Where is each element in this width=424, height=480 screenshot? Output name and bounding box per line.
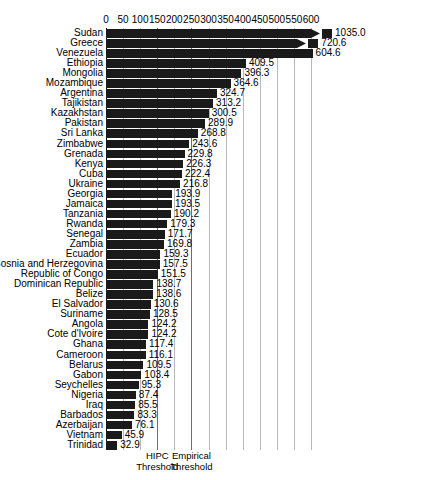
x-tick-label-450: 450 [251, 13, 268, 27]
bar-row: Vietnam45.9 [0, 430, 424, 440]
bar-row: Georgia193.9 [0, 189, 424, 199]
bar-row: Cameroon116.1 [0, 350, 424, 360]
bar [106, 69, 241, 78]
bar [106, 190, 172, 199]
bar-row: Sudan1035.0 [0, 28, 424, 38]
bar [106, 129, 198, 138]
bar [106, 340, 146, 349]
bar [106, 150, 185, 159]
bar-row: Senegal171.7 [0, 229, 424, 239]
bar-value-label: 604.6 [316, 47, 341, 59]
bar-chart: 050100150200250300350400450500550600 Sud… [0, 0, 424, 480]
bar-row: Cote d'Ivoire124.2 [0, 329, 424, 339]
bar [106, 220, 167, 229]
bar [106, 250, 160, 259]
bar [106, 140, 189, 149]
bar [106, 79, 231, 88]
bar-row: Dominican Republic138.7 [0, 279, 424, 289]
bar [106, 170, 182, 179]
bar [106, 109, 209, 118]
annotation-label-line1: Empirical [170, 450, 212, 461]
bar [106, 441, 117, 450]
bar-rows: Sudan1035.0Greece720.6Venezuela604.6Ethi… [0, 28, 424, 450]
x-tick-label-250: 250 [183, 13, 200, 27]
bar [106, 210, 171, 219]
axis-break-arrow-icon [311, 29, 320, 38]
x-tick-label-100: 100 [132, 13, 149, 27]
x-tick-label-300: 300 [200, 13, 217, 27]
bar-row: Kenya226.3 [0, 159, 424, 169]
bar [106, 411, 134, 420]
bar [106, 99, 213, 108]
x-tick-label-0: 0 [103, 13, 109, 27]
bar [106, 290, 153, 299]
bar-row: Seychelles95.3 [0, 380, 424, 390]
bar [106, 240, 164, 249]
bar-row: Venezuela604.6 [0, 48, 424, 58]
bar [106, 361, 143, 370]
bar-row: Rwanda179.3 [0, 219, 424, 229]
bar [106, 300, 151, 309]
bar [106, 381, 139, 390]
x-axis-tick-labels: 050100150200250300350400450500550600 [0, 13, 424, 27]
bar-row: Grenada229.8 [0, 149, 424, 159]
bar [106, 200, 172, 209]
bar [106, 270, 158, 279]
bar-row: Nigeria87.4 [0, 390, 424, 400]
bar-row: Belarus109.5 [0, 360, 424, 370]
bar [106, 371, 141, 380]
x-tick-label-550: 550 [286, 13, 303, 27]
bar [106, 320, 148, 329]
bar-row: Ukraine216.8 [0, 179, 424, 189]
bar [106, 119, 205, 128]
bar [106, 180, 180, 189]
axis-break-arrow-icon [297, 39, 306, 48]
bar [106, 280, 153, 289]
bar [106, 330, 148, 339]
bar [106, 39, 297, 48]
x-tick-label-600: 600 [303, 13, 320, 27]
bar-row: Tanzania190.2 [0, 209, 424, 219]
x-tick-label-400: 400 [234, 13, 251, 27]
category-label: Trinidad [67, 439, 103, 451]
bar [106, 160, 183, 169]
bar [106, 351, 146, 360]
bar [106, 260, 160, 269]
bar [106, 49, 313, 58]
bar-value-label: 32.9 [120, 439, 139, 451]
bar [106, 391, 136, 400]
bar [106, 230, 165, 239]
bar [106, 89, 217, 98]
x-tick-label-350: 350 [217, 13, 234, 27]
x-tick-label-50: 50 [118, 13, 129, 27]
x-tick-label-500: 500 [269, 13, 286, 27]
bar-row: Azerbaijan76.1 [0, 420, 424, 430]
annotation-empirical-threshold: EmpiricalThreshold [170, 450, 212, 472]
annotation-label-line2: Threshold [170, 461, 212, 472]
bar [106, 59, 246, 68]
bar-row: Cuba222.4 [0, 169, 424, 179]
bar [106, 310, 150, 319]
bar-row: Zambia169.8 [0, 239, 424, 249]
x-tick-label-150: 150 [149, 13, 166, 27]
bar [106, 29, 311, 38]
bar-row: Suriname128.5 [0, 309, 424, 319]
bar-row: Trinidad32.9 [0, 440, 424, 450]
bar [106, 401, 135, 410]
x-tick-label-200: 200 [166, 13, 183, 27]
